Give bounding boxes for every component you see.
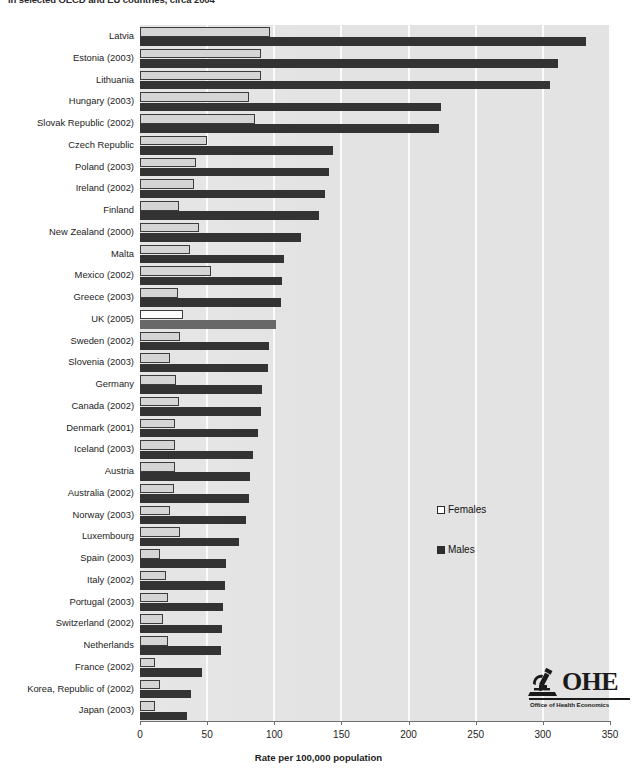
bar-row <box>140 90 610 113</box>
bar-female <box>140 71 261 81</box>
bar-male <box>140 668 202 677</box>
category-label: Latvia <box>0 30 134 41</box>
bar-female <box>140 201 179 211</box>
bar-male <box>140 538 239 547</box>
bar-row <box>140 482 610 505</box>
bar-male <box>140 59 558 68</box>
bar-row <box>140 264 610 287</box>
bar-female <box>140 549 160 559</box>
category-label: UK (2005) <box>0 313 134 324</box>
bar-female <box>140 288 178 298</box>
bar-female <box>140 158 196 168</box>
bar-row <box>140 177 610 200</box>
bar-row <box>140 221 610 244</box>
x-tick <box>409 721 410 725</box>
category-label: Czech Republic <box>0 139 134 150</box>
bar-male <box>140 103 441 112</box>
bar-male <box>140 690 191 699</box>
x-axis-line <box>140 721 611 722</box>
x-tick <box>140 721 141 725</box>
x-tick-label: 250 <box>467 729 484 740</box>
bar-row <box>140 438 610 461</box>
bar-female <box>140 332 180 342</box>
category-label: Slovenia (2003) <box>0 356 134 367</box>
bar-row <box>140 199 610 222</box>
ohe-letters: OHE <box>562 669 618 695</box>
x-tick-label: 0 <box>137 729 143 740</box>
bar-row <box>140 525 610 548</box>
category-label: Ireland (2002) <box>0 182 134 193</box>
bar-male <box>140 603 223 612</box>
bar-female <box>140 506 170 516</box>
x-tick <box>274 721 275 725</box>
bar-female <box>140 571 166 581</box>
category-label: Greece (2003) <box>0 291 134 302</box>
category-label: Norway (2003) <box>0 509 134 520</box>
ohe-subtitle: Office of Health Economics <box>530 701 609 708</box>
category-label: France (2002) <box>0 661 134 672</box>
bar-female <box>140 114 255 124</box>
bar-female <box>140 484 174 494</box>
bar-row <box>140 243 610 266</box>
bar-female <box>140 440 175 450</box>
category-label: Austria <box>0 465 134 476</box>
category-label: New Zealand (2000) <box>0 226 134 237</box>
bar-female <box>140 614 163 624</box>
bar-male <box>140 320 276 329</box>
bar-male <box>140 625 222 634</box>
bar-male <box>140 146 333 155</box>
category-label: Denmark (2001) <box>0 422 134 433</box>
bar-female <box>140 27 270 37</box>
bar-male <box>140 168 329 177</box>
category-label: Lithuania <box>0 74 134 85</box>
bar-female <box>140 353 170 363</box>
bar-row <box>140 460 610 483</box>
legend-item-males: Males <box>437 544 475 555</box>
category-label: Germany <box>0 378 134 389</box>
bar-row <box>140 569 610 592</box>
bar-male <box>140 211 319 220</box>
bar-male <box>140 472 250 481</box>
bar-row <box>140 547 610 570</box>
bar-male <box>140 124 439 133</box>
bar-female <box>140 527 180 537</box>
bar-row <box>140 47 610 70</box>
bar-row <box>140 308 610 331</box>
ohe-rule <box>529 698 630 700</box>
bar-female <box>140 310 183 320</box>
bar-female <box>140 245 190 255</box>
bar-female <box>140 419 175 429</box>
x-tick-label: 300 <box>535 729 552 740</box>
category-label: Australia (2002) <box>0 487 134 498</box>
bar-male <box>140 37 586 46</box>
category-label: Portugal (2003) <box>0 596 134 607</box>
bar-female <box>140 680 160 690</box>
bar-male <box>140 190 325 199</box>
x-tick-label: 200 <box>400 729 417 740</box>
bar-male <box>140 277 282 286</box>
x-tick <box>476 721 477 725</box>
category-label: Luxembourg <box>0 530 134 541</box>
category-label: Italy (2002) <box>0 574 134 585</box>
bar-female <box>140 658 155 668</box>
bar-female <box>140 375 176 385</box>
microscope-icon <box>525 668 565 699</box>
category-label: Malta <box>0 248 134 259</box>
bar-male <box>140 712 187 721</box>
bar-row <box>140 634 610 657</box>
category-label: Poland (2003) <box>0 161 134 172</box>
x-tick-label: 350 <box>602 729 619 740</box>
category-label: Korea, Republic of (2002) <box>0 683 134 694</box>
x-tick <box>543 721 544 725</box>
bar-row <box>140 69 610 92</box>
bar-row <box>140 351 610 374</box>
category-label: Estonia (2003) <box>0 52 134 63</box>
bar-male <box>140 646 221 655</box>
bar-male <box>140 385 262 394</box>
bar-male <box>140 255 284 264</box>
bar-male <box>140 494 249 503</box>
bar-row <box>140 395 610 418</box>
bar-row <box>140 330 610 353</box>
category-label: Iceland (2003) <box>0 443 134 454</box>
bar-female <box>140 49 261 59</box>
